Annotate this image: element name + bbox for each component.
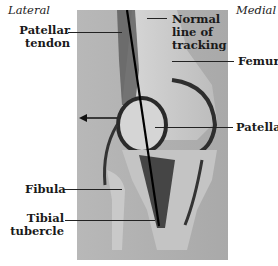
- label-line: tubercle: [6, 225, 64, 238]
- label-line: tendon: [8, 37, 70, 50]
- leader-normal-line: [147, 18, 167, 19]
- label-line: tracking: [172, 39, 227, 52]
- leader-tibial-tubercle: [65, 220, 155, 221]
- leader-femur: [172, 61, 234, 62]
- label-patella: Patella: [236, 121, 278, 134]
- leader-patellar-tendon: [68, 32, 122, 33]
- label-fibula: Fibula: [25, 183, 66, 196]
- medial-label: Medial: [236, 3, 276, 17]
- leader-fibula: [64, 189, 122, 190]
- label-femur: Femur: [238, 55, 278, 68]
- label-normal-line: Normal line of tracking: [172, 13, 227, 52]
- label-patellar-tendon: Patellar tendon: [8, 24, 70, 50]
- lateral-label: Lateral: [8, 3, 50, 17]
- label-tibial-tubercle: Tibial tubercle: [6, 212, 64, 238]
- leader-patella: [155, 127, 233, 128]
